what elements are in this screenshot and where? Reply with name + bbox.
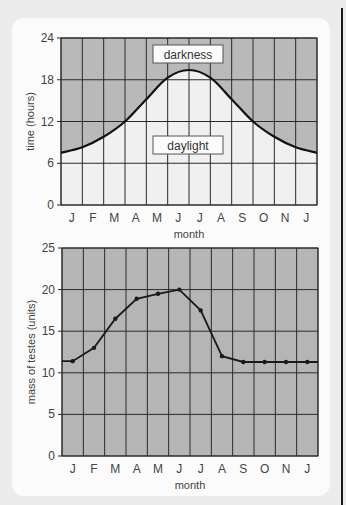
- x-tick-label: J: [69, 211, 75, 225]
- figure: 06121824JFMAMJJASONJmonthtime (hours)dar…: [0, 0, 346, 505]
- y-tick-label: 12: [41, 115, 55, 129]
- x-tick-label: J: [303, 211, 309, 225]
- daylight-label: daylight: [167, 139, 209, 153]
- y-tick-label: 18: [41, 73, 55, 87]
- x-tick-label: A: [218, 462, 226, 476]
- x-tick-label: A: [133, 462, 141, 476]
- y-tick-label: 6: [47, 156, 54, 170]
- x-tick-label: J: [197, 211, 203, 225]
- data-point: [284, 360, 288, 364]
- x-tick-label: M: [110, 462, 120, 476]
- x-tick-label: A: [132, 211, 140, 225]
- data-point: [92, 346, 96, 350]
- x-tick-label: J: [175, 211, 181, 225]
- x-tick-label: J: [176, 462, 182, 476]
- x-axis-title: month: [175, 479, 206, 491]
- y-axis-title: time (hours): [24, 92, 36, 151]
- y-tick-label: 5: [48, 407, 55, 421]
- x-tick-label: O: [260, 462, 269, 476]
- darkness-label: darkness: [164, 48, 213, 62]
- y-axis-title: mass of testes (units): [25, 300, 37, 405]
- data-point: [134, 297, 138, 301]
- x-tick-label: M: [152, 211, 162, 225]
- x-tick-label: S: [238, 211, 246, 225]
- data-point: [113, 317, 117, 321]
- testes-mass-chart: 0510152025JFMAMJJASONJmonthmass of teste…: [25, 241, 318, 491]
- x-tick-label: M: [109, 211, 119, 225]
- x-tick-label: N: [281, 211, 290, 225]
- x-tick-label: F: [90, 462, 97, 476]
- data-point: [241, 360, 245, 364]
- x-tick-label: N: [282, 462, 291, 476]
- data-point: [305, 360, 309, 364]
- x-tick-label: M: [153, 462, 163, 476]
- y-tick-label: 10: [42, 366, 56, 380]
- x-tick-label: S: [239, 462, 247, 476]
- y-tick-label: 24: [41, 31, 55, 45]
- data-point: [220, 354, 224, 358]
- y-tick-label: 0: [47, 198, 54, 212]
- y-tick-label: 0: [48, 449, 55, 463]
- data-point: [156, 292, 160, 296]
- x-tick-label: A: [217, 211, 225, 225]
- daylight-chart: 06121824JFMAMJJASONJmonthtime (hours)dar…: [24, 31, 317, 240]
- data-point: [70, 359, 74, 363]
- y-tick-label: 25: [42, 241, 56, 255]
- x-tick-label: F: [89, 211, 96, 225]
- x-tick-label: J: [70, 462, 76, 476]
- x-tick-label: J: [304, 462, 310, 476]
- y-tick-label: 20: [42, 283, 56, 297]
- x-axis-title: month: [174, 228, 205, 240]
- x-tick-label: J: [198, 462, 204, 476]
- y-tick-label: 15: [42, 324, 56, 338]
- data-point: [177, 287, 181, 291]
- x-tick-label: O: [259, 211, 268, 225]
- data-point: [198, 308, 202, 312]
- data-point: [262, 360, 266, 364]
